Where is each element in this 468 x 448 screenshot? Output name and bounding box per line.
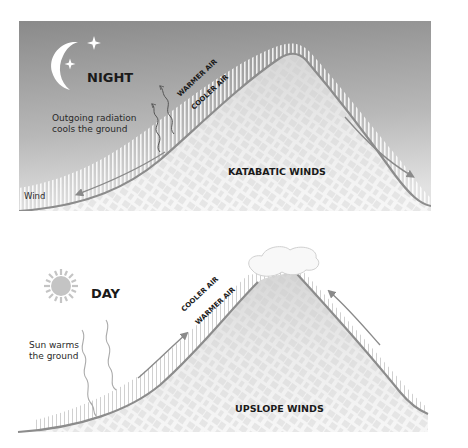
radiation-label: Outgoing radiation cools the ground bbox=[52, 113, 139, 134]
night-title: NIGHT bbox=[87, 70, 133, 85]
mountain-winds-diagram: NIGHT WARMER AIR COOLER AIR Outgoing rad… bbox=[0, 0, 468, 448]
sun-icon bbox=[44, 269, 78, 303]
sun-warms-label: Sun warms the ground bbox=[29, 340, 82, 361]
cloud-icon bbox=[249, 247, 319, 277]
katabatic-caption: KATABATIC WINDS bbox=[228, 166, 326, 177]
sun-ray-wavy-icon bbox=[106, 320, 116, 390]
wind-label: Wind bbox=[24, 191, 45, 201]
day-title: DAY bbox=[91, 286, 121, 301]
upslope-caption: UPSLOPE WINDS bbox=[235, 403, 324, 414]
